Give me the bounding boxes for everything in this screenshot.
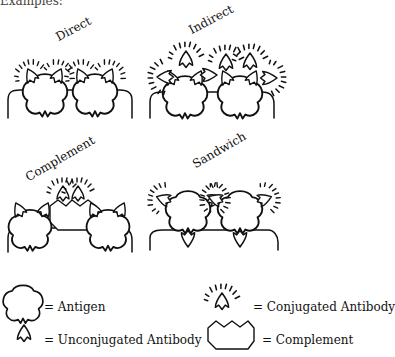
- legend-conjugated-label: = Conjugated Antibody: [253, 300, 395, 314]
- legend-unconjugated-label: = Unconjugated Antibody: [44, 333, 202, 347]
- complement-diagram: [8, 178, 132, 252]
- legend-complement-label: = Complement: [262, 333, 353, 347]
- sandwich-diagram: [144, 179, 285, 250]
- indirect-diagram: [148, 42, 286, 118]
- legend-antigen-label: = Antigen: [44, 300, 105, 314]
- antigen-icon: [3, 285, 43, 323]
- direct-diagram: [8, 55, 132, 118]
- conjugated-antibody-icon: [204, 284, 239, 309]
- unconjugated-antibody-icon: [17, 325, 30, 342]
- complement-icon: [208, 321, 254, 349]
